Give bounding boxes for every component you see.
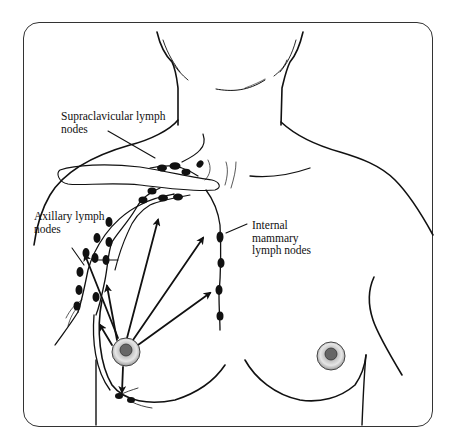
internal-mammary-lymph-chain (206, 190, 247, 330)
internal-mammary-label: Internal mammary lymph nodes (252, 219, 311, 257)
left-nipple (112, 338, 140, 366)
supraclavicular-label: Supraclavicular lymph nodes (61, 110, 165, 135)
internal-mammary-pointer (226, 224, 247, 233)
right-nipple (317, 342, 345, 370)
axillary-label: Axillary lymph nodes (34, 210, 105, 235)
neck-outline (157, 32, 303, 125)
axillary-pointer (72, 248, 84, 265)
clavicle (58, 160, 236, 191)
supraclavicular-pointer (108, 131, 155, 158)
lower-breast-nodes (120, 388, 152, 408)
